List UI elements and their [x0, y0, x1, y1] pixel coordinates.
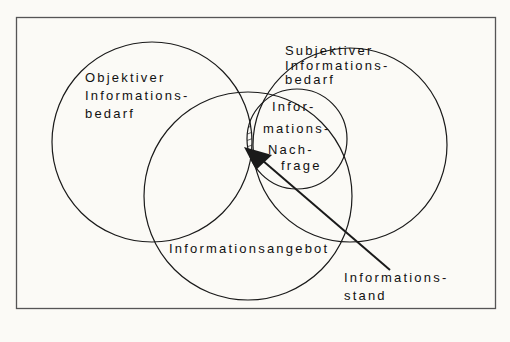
label-subjektiver: Subjektiver — [285, 43, 374, 58]
label-informationsangebot: Informationsangebot — [169, 241, 329, 256]
label-nachfrage-2: mations- — [263, 121, 330, 136]
label-nachfrage-3: Nach- — [268, 142, 314, 157]
label-objektiver-2: Informations- — [85, 88, 189, 103]
label-informationsstand-2: stand — [344, 288, 387, 303]
label-objektiver-3: bedarf — [85, 106, 135, 121]
label-subjektiver-2: Informations- — [285, 58, 389, 73]
label-nachfrage: Infor- — [272, 99, 316, 114]
label-nachfrage-4: frage — [281, 158, 322, 173]
label-objektiver: Objektiver — [85, 70, 166, 85]
label-subjektiver-3: bedarf — [285, 72, 335, 87]
label-informationsstand: Informations- — [344, 270, 448, 285]
venn-diagram: Objektiver Informations- bedarf Subjekti… — [0, 0, 510, 342]
